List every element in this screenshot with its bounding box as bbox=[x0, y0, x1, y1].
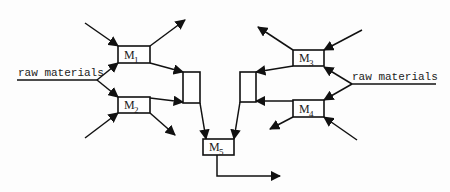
arrow-m4-output bbox=[270, 117, 293, 129]
machine-m3-subscript: 3 bbox=[309, 58, 314, 68]
arrow-external-to-m2 bbox=[85, 113, 118, 138]
arrow-external-to-m3 bbox=[324, 30, 362, 50]
left-assembly-buffer bbox=[183, 72, 200, 103]
arrow-external-to-m4 bbox=[324, 117, 357, 140]
arrow-left-buffer-to-m5 bbox=[200, 103, 206, 139]
right-assembly-buffer bbox=[240, 72, 256, 102]
machine-m4: M 4 bbox=[293, 100, 324, 119]
arrow-m3-to-right-buffer bbox=[256, 66, 293, 72]
raw-materials-left-label: raw materials bbox=[18, 67, 104, 79]
machine-m2: M 2 bbox=[118, 97, 150, 115]
arrow-m2-output bbox=[150, 113, 175, 135]
arrow-external-to-m1 bbox=[85, 23, 118, 46]
arrow-m1-to-left-buffer bbox=[150, 63, 183, 72]
machine-m1-subscript: 1 bbox=[134, 55, 139, 65]
arrow-raw-to-m2 bbox=[97, 80, 118, 97]
arrow-right-buffer-to-m5 bbox=[234, 102, 240, 139]
machine-m2-subscript: 2 bbox=[134, 105, 139, 115]
raw-materials-left-input: raw materials bbox=[17, 63, 118, 97]
production-network-diagram: raw materials M 1 M 2 raw materials M bbox=[0, 0, 450, 192]
arrow-m5-output bbox=[217, 155, 280, 176]
machine-m5-subscript: 5 bbox=[219, 147, 224, 157]
arrow-raw-to-m4 bbox=[324, 84, 352, 100]
machine-m1: M 1 bbox=[118, 46, 150, 65]
arrow-m2-to-left-buffer bbox=[150, 98, 183, 102]
arrow-raw-to-m3 bbox=[324, 67, 352, 84]
machine-m5: M 5 bbox=[203, 139, 234, 157]
arrow-m1-output bbox=[150, 20, 185, 46]
machine-m3: M 3 bbox=[293, 50, 324, 68]
raw-materials-right-input: raw materials bbox=[324, 67, 438, 100]
arrow-m3-output bbox=[258, 27, 293, 50]
machine-m4-subscript: 4 bbox=[309, 109, 314, 119]
raw-materials-right-label: raw materials bbox=[352, 71, 438, 83]
